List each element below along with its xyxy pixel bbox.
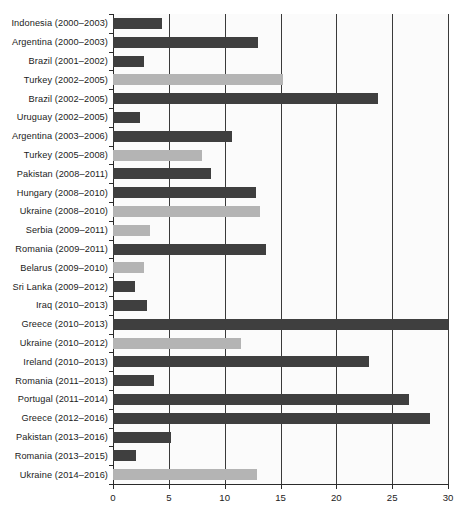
bar	[113, 206, 260, 217]
category-label: Uruguay (2002–2005)	[17, 111, 108, 123]
bar	[113, 225, 150, 236]
y-axis-tick	[109, 221, 113, 222]
y-axis-tick	[109, 334, 113, 335]
category-label: Iraq (2010–2013)	[36, 299, 108, 311]
category-label: Romania (2011–2013)	[15, 375, 108, 387]
x-axis-tick-label: 15	[275, 492, 286, 503]
category-label: Brazil (2001–2002)	[29, 55, 108, 67]
category-label: Greece (2010–2013)	[21, 318, 108, 330]
bar	[113, 356, 369, 367]
bar	[113, 18, 162, 29]
y-axis-tick	[109, 465, 113, 466]
category-label: Portugal (2011–2014)	[18, 393, 108, 405]
bar	[113, 56, 144, 67]
y-axis-tick	[109, 352, 113, 353]
bar	[113, 262, 144, 273]
x-axis-tick-5	[169, 484, 170, 489]
x-axis-tick-30	[448, 484, 449, 489]
y-axis-tick	[109, 296, 113, 297]
x-axis-tick-0	[113, 484, 114, 489]
bar	[113, 413, 430, 424]
y-axis-tick	[109, 33, 113, 34]
bar	[113, 469, 257, 480]
bar	[113, 112, 140, 123]
category-label: Pakistan (2008–2011)	[17, 168, 108, 180]
y-axis-tick	[109, 183, 113, 184]
bar	[113, 187, 256, 198]
y-axis-tick	[109, 52, 113, 53]
y-axis-tick	[109, 146, 113, 147]
x-axis-tick-label: 25	[387, 492, 398, 503]
category-label: Ukraine (2014–2016)	[20, 469, 108, 481]
y-axis-tick	[109, 89, 113, 90]
x-axis-tick-25	[392, 484, 393, 489]
y-axis-tick	[109, 240, 113, 241]
category-label: Brazil (2002–2005)	[29, 93, 108, 105]
y-axis-tick	[109, 409, 113, 410]
bar	[113, 168, 211, 179]
y-axis-tick	[109, 277, 113, 278]
bar-chart-figure: Indonesia (2000–2003)Argentina (2000–200…	[0, 0, 472, 522]
y-axis-tick	[109, 258, 113, 259]
x-axis-tick-label: 10	[219, 492, 230, 503]
y-axis-tick	[109, 14, 113, 15]
x-axis-tick-15	[281, 484, 282, 489]
y-axis-tick	[109, 202, 113, 203]
bar	[113, 244, 266, 255]
y-axis-tick	[109, 70, 113, 71]
bar	[113, 450, 136, 461]
category-label: Sri Lanka (2009–2012)	[12, 281, 108, 293]
category-label: Argentina (2000–2003)	[12, 36, 108, 48]
category-label: Serbia (2009–2011)	[26, 224, 108, 236]
category-label: Turkey (2005–2008)	[24, 149, 108, 161]
plot-area	[113, 14, 448, 484]
category-label: Ireland (2010–2013)	[23, 356, 108, 368]
category-label: Argentina (2003–2006)	[12, 130, 108, 142]
category-label: Indonesia (2000–2003)	[11, 17, 108, 29]
y-axis-tick	[109, 127, 113, 128]
y-axis-tick	[109, 390, 113, 391]
bar	[113, 74, 283, 85]
x-axis-tick-label: 5	[166, 492, 171, 503]
x-axis-tick-20	[336, 484, 337, 489]
bar	[113, 150, 202, 161]
bar	[113, 37, 258, 48]
y-axis-tick	[109, 315, 113, 316]
bar	[113, 375, 154, 386]
bar	[113, 93, 378, 104]
y-axis-tick	[109, 164, 113, 165]
category-label: Pakistan (2013–2016)	[16, 431, 108, 443]
y-axis-tick	[109, 108, 113, 109]
bar	[113, 338, 241, 349]
x-axis-tick-10	[225, 484, 226, 489]
bar	[113, 281, 135, 292]
bar	[113, 300, 147, 311]
category-label: Romania (2013–2015)	[15, 450, 108, 462]
y-axis-tick	[109, 446, 113, 447]
bar	[113, 394, 409, 405]
figure-caption-faint	[6, 0, 446, 9]
category-label: Romania (2009–2011)	[15, 243, 108, 255]
category-label-column: Indonesia (2000–2003)Argentina (2000–200…	[0, 14, 111, 484]
category-label: Ukraine (2010–2012)	[20, 337, 108, 349]
gridline-30	[448, 14, 449, 484]
x-axis-tick-label: 30	[443, 492, 454, 503]
category-label: Ukraine (2008–2010)	[20, 205, 108, 217]
category-label: Turkey (2002–2005)	[24, 74, 108, 86]
y-axis-tick	[109, 428, 113, 429]
bar	[113, 432, 171, 443]
bar	[113, 131, 232, 142]
category-label: Greece (2012–2016)	[21, 412, 108, 424]
category-label: Hungary (2008–2010)	[17, 187, 108, 199]
category-label: Belarus (2009–2010)	[20, 262, 108, 274]
y-axis-tick	[109, 371, 113, 372]
x-axis-tick-label: 0	[110, 492, 115, 503]
plot-wrapper: Indonesia (2000–2003)Argentina (2000–200…	[0, 14, 472, 500]
bar	[113, 319, 448, 330]
x-axis-tick-label: 20	[331, 492, 342, 503]
